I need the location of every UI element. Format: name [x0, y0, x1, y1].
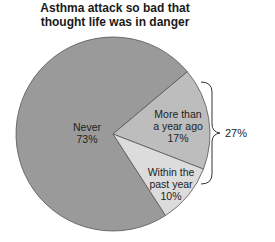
label-line: Never	[62, 121, 112, 133]
slice-label-within-the-past-year: Within the past year 10%	[136, 166, 206, 202]
label-line: 17%	[143, 132, 213, 144]
label-line: 73%	[62, 133, 112, 145]
label-line: 10%	[136, 190, 206, 202]
pie-chart	[0, 0, 275, 242]
label-line: Within the	[136, 166, 206, 178]
brace-total-label: 27%	[225, 127, 247, 139]
slice-label-more-than-a-year-ago: More than a year ago 17%	[143, 108, 213, 144]
label-line: past year	[136, 178, 206, 190]
label-line: a year ago	[143, 120, 213, 132]
label-line: More than	[143, 108, 213, 120]
slice-label-never: Never 73%	[62, 121, 112, 145]
